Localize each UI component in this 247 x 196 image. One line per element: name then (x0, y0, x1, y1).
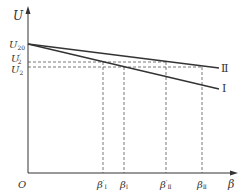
x-tick-beta-i: βⅠ (119, 179, 129, 190)
x-axis-arrow-icon (230, 171, 238, 176)
svg-text:βⅡ: βⅡ (196, 179, 207, 190)
svg-text:U2: U2 (11, 64, 23, 76)
line-ii (28, 44, 219, 68)
x-axis-label: β (227, 178, 234, 191)
svg-text:β′Ⅱ: β′Ⅱ (159, 179, 171, 190)
y-axis-label: U (13, 9, 24, 23)
svg-text:β′Ⅰ: β′Ⅰ (96, 179, 107, 190)
line-i (28, 44, 219, 89)
y-tick-u20: U20 (9, 39, 25, 51)
voltage-vs-beta-diagram: U β O U20 U′2 U2 β′Ⅰ βⅠ β′Ⅱ βⅡ Ⅱ Ⅰ (0, 0, 247, 196)
y-axis-arrow-icon (26, 6, 31, 14)
svg-text:βⅠ: βⅠ (119, 179, 129, 190)
y-tick-u2: U2 (11, 64, 23, 76)
x-tick-beta-i-prime: β′Ⅰ (96, 179, 107, 190)
x-tick-beta-ii: βⅡ (196, 179, 207, 190)
line-ii-label: Ⅱ (221, 62, 228, 74)
x-tick-beta-ii-prime: β′Ⅱ (159, 179, 171, 190)
origin-label: O (18, 179, 26, 190)
svg-text:U20: U20 (9, 39, 25, 51)
line-i-label: Ⅰ (222, 82, 226, 94)
